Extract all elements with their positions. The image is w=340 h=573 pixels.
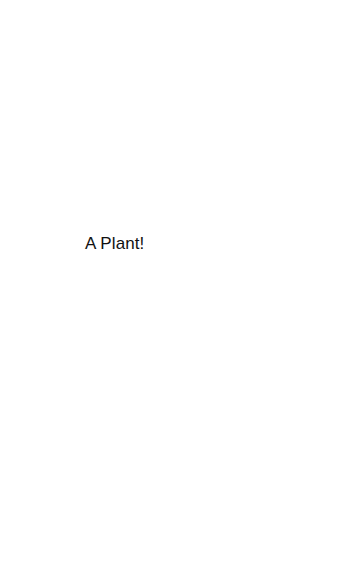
document-page: A Plant! [0, 0, 340, 573]
body-text: A Plant! [85, 233, 144, 255]
